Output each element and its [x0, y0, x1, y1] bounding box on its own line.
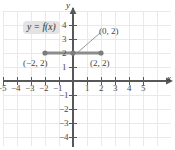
point-left-endpoint [42, 50, 47, 55]
y-tick-label-neg3: −3 [59, 118, 69, 128]
y-tick-label-3: 3 [62, 34, 67, 44]
x-tick-label-4: 4 [127, 83, 132, 93]
x-tick-label-2: 2 [99, 83, 104, 93]
function-label: y = f(x) [23, 21, 60, 34]
point-right-endpoint [98, 50, 103, 55]
point-y-intercept [70, 50, 75, 55]
point-label-origin: (0, 2) [99, 26, 119, 36]
graph-figure: y = f(x) y x −5 −4 −3 −2 −1 1 2 3 4 5 4 … [0, 0, 175, 150]
x-tick-label-neg2: −2 [39, 83, 49, 93]
y-tick-label-1: 1 [62, 62, 67, 72]
y-tick-label-neg1: −1 [59, 90, 69, 100]
y-axis-label: y [66, 0, 70, 10]
x-tick-label-neg4: −4 [11, 83, 21, 93]
x-tick-label-neg3: −3 [25, 83, 35, 93]
y-tick-label-4: 4 [62, 20, 67, 30]
point-label-left: (−2, 2) [23, 58, 48, 68]
x-tick-label-5: 5 [141, 83, 146, 93]
y-tick-label-neg4: −4 [59, 132, 69, 142]
x-axis-label: x [167, 73, 171, 83]
point-label-right: (2, 2) [90, 58, 110, 68]
x-tick-label-neg5: −5 [0, 83, 7, 93]
x-tick-label-3: 3 [113, 83, 118, 93]
annotation-leader-line [77, 33, 100, 53]
y-tick-label-neg2: −2 [59, 104, 69, 114]
y-tick-label-2: 2 [62, 48, 67, 58]
x-tick-label-1: 1 [85, 83, 90, 93]
